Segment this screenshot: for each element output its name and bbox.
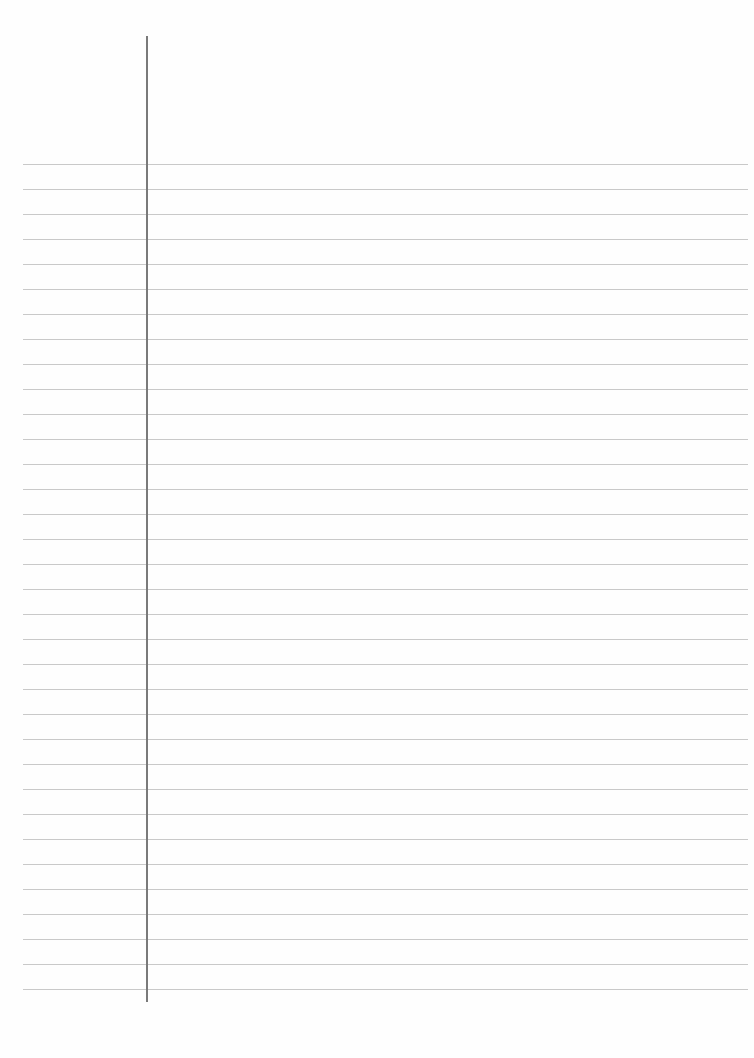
notebook-page: [0, 0, 754, 1058]
ruled-line: [23, 339, 748, 340]
ruled-line: [23, 764, 748, 765]
ruled-line: [23, 564, 748, 565]
ruled-line: [23, 489, 748, 490]
ruled-line: [23, 789, 748, 790]
ruled-line: [23, 714, 748, 715]
ruled-line: [23, 164, 748, 165]
ruled-line: [23, 514, 748, 515]
ruled-line: [23, 864, 748, 865]
ruled-line: [23, 889, 748, 890]
ruled-line: [23, 289, 748, 290]
ruled-line: [23, 614, 748, 615]
ruled-line: [23, 414, 748, 415]
ruled-line: [23, 814, 748, 815]
ruled-line: [23, 739, 748, 740]
ruled-line: [23, 964, 748, 965]
ruled-line: [23, 314, 748, 315]
ruled-line: [23, 189, 748, 190]
ruled-line: [23, 389, 748, 390]
ruled-line: [23, 939, 748, 940]
ruled-line: [23, 364, 748, 365]
ruled-line: [23, 539, 748, 540]
ruled-line: [23, 464, 748, 465]
ruled-line: [23, 664, 748, 665]
ruled-line: [23, 439, 748, 440]
ruled-line: [23, 689, 748, 690]
ruled-line: [23, 639, 748, 640]
ruled-line: [23, 989, 748, 990]
ruled-line: [23, 589, 748, 590]
ruled-line: [23, 264, 748, 265]
ruled-line: [23, 839, 748, 840]
margin-line: [146, 36, 148, 1002]
ruled-line: [23, 914, 748, 915]
ruled-line: [23, 214, 748, 215]
ruled-line: [23, 239, 748, 240]
